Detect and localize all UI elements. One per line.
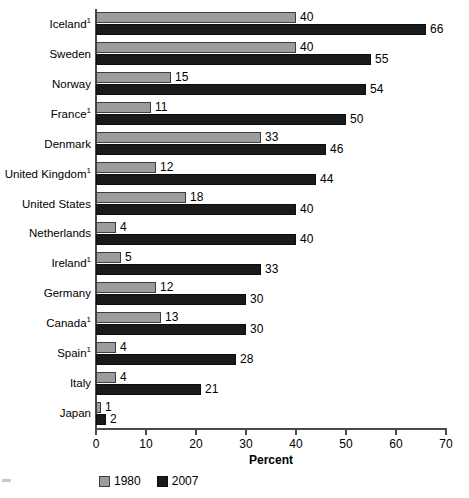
bar-2007-denmark (96, 144, 326, 155)
x-axis-tick-label: 40 (276, 437, 316, 451)
legend-label-1980: 1980 (114, 474, 141, 488)
category-label-iceland: Iceland1 (1, 18, 91, 30)
x-axis-tick-label: 0 (76, 437, 116, 451)
chart-legend: 1980 2007 (99, 474, 208, 488)
legend-swatch-2007-icon (157, 476, 168, 487)
category-label-ireland: Ireland1 (1, 257, 91, 269)
bar-2007-spain (96, 354, 236, 365)
bar-value-1980-germany: 12 (160, 282, 173, 293)
bar-value-1980-spain: 4 (120, 342, 127, 353)
bar-value-2007-denmark: 46 (330, 144, 343, 155)
x-axis-tick (95, 429, 97, 435)
bar-value-2007-united-states: 40 (300, 204, 313, 215)
bar-2007-norway (96, 84, 366, 95)
bar-value-2007-united-kingdom: 44 (320, 174, 333, 185)
category-label-france: France1 (1, 108, 91, 120)
x-axis-tick (145, 429, 147, 435)
bar-value-2007-japan: 2 (110, 414, 117, 425)
bar-value-2007-spain: 28 (240, 354, 253, 365)
bar-1980-italy (96, 372, 116, 383)
category-label-italy: Italy (1, 377, 91, 389)
bar-value-1980-denmark: 33 (265, 132, 278, 143)
category-label-united-states: United States (1, 198, 91, 210)
x-axis-tick (295, 429, 297, 435)
x-axis-tick-label: 50 (326, 437, 366, 451)
bar-2007-netherlands (96, 234, 296, 245)
bar-value-1980-canada: 13 (165, 312, 178, 323)
x-axis-tick (345, 429, 347, 435)
bar-1980-netherlands (96, 222, 116, 233)
bar-2007-canada (96, 324, 246, 335)
x-axis-tick-label: 20 (176, 437, 216, 451)
bar-1980-canada (96, 312, 161, 323)
category-axis-labels: Iceland1SwedenNorwayFrance1DenmarkUnited… (0, 9, 91, 428)
x-axis-tick-label: 70 (426, 437, 466, 451)
x-axis-title: Percent (96, 453, 446, 467)
legend-item-1980: 1980 (99, 474, 141, 488)
bar-value-1980-norway: 15 (175, 72, 188, 83)
bar-2007-iceland (96, 24, 426, 35)
category-label-canada: Canada1 (1, 317, 91, 329)
plot-area: 4066405515541150334612441840440533123013… (96, 9, 446, 428)
bar-2007-ireland (96, 264, 261, 275)
bar-value-2007-sweden: 55 (375, 54, 388, 65)
category-label-japan: Japan (1, 407, 91, 419)
bar-value-2007-germany: 30 (250, 294, 263, 305)
x-axis-tick (445, 429, 447, 435)
bar-value-2007-canada: 30 (250, 324, 263, 335)
bar-value-1980-united-kingdom: 12 (160, 162, 173, 173)
bar-value-1980-united-states: 18 (190, 192, 203, 203)
bar-value-1980-italy: 4 (120, 372, 127, 383)
bar-1980-united-states (96, 192, 186, 203)
x-axis-tick-label: 10 (126, 437, 166, 451)
category-label-denmark: Denmark (1, 138, 91, 150)
category-label-norway: Norway (1, 78, 91, 90)
bar-1980-germany (96, 282, 156, 293)
bar-1980-denmark (96, 132, 261, 143)
bar-value-1980-france: 11 (155, 102, 167, 113)
category-label-germany: Germany (1, 287, 91, 299)
bar-1980-japan (96, 402, 101, 413)
bar-2007-germany (96, 294, 246, 305)
bar-2007-united-states (96, 204, 296, 215)
bar-1980-iceland (96, 12, 296, 23)
bar-2007-japan (96, 414, 106, 425)
category-label-spain: Spain1 (1, 347, 91, 359)
legend-item-2007: 2007 (157, 474, 199, 488)
x-axis-tick (195, 429, 197, 435)
category-label-united-kingdom: United Kingdom1 (1, 168, 91, 180)
bar-value-1980-japan: 1 (105, 402, 112, 413)
bar-value-2007-italy: 21 (205, 384, 218, 395)
legend-label-2007: 2007 (172, 474, 199, 488)
bar-2007-sweden (96, 54, 371, 65)
category-label-sweden: Sweden (1, 48, 91, 60)
bar-chart: Iceland1SwedenNorwayFrance1DenmarkUnited… (0, 0, 469, 498)
x-axis-tick-label: 60 (376, 437, 416, 451)
bar-1980-norway (96, 72, 171, 83)
x-axis-tick (245, 429, 247, 435)
bar-value-2007-iceland: 66 (430, 24, 443, 35)
bar-1980-united-kingdom (96, 162, 156, 173)
x-axis-line (95, 428, 447, 430)
bar-value-2007-netherlands: 40 (300, 234, 313, 245)
bar-value-2007-norway: 54 (370, 84, 383, 95)
bar-1980-spain (96, 342, 116, 353)
bar-2007-france (96, 114, 346, 125)
bar-value-1980-ireland: 5 (125, 252, 132, 263)
bar-2007-united-kingdom (96, 174, 316, 185)
x-axis-tick-label: 30 (226, 437, 266, 451)
x-axis-tick (395, 429, 397, 435)
legend-swatch-1980-icon (99, 476, 110, 487)
bar-value-1980-sweden: 40 (300, 42, 313, 53)
bar-1980-france (96, 102, 151, 113)
bar-value-2007-ireland: 33 (265, 264, 278, 275)
bar-1980-sweden (96, 42, 296, 53)
bar-1980-ireland (96, 252, 121, 263)
bar-value-1980-netherlands: 4 (120, 222, 127, 233)
category-label-netherlands: Netherlands (1, 227, 91, 239)
bar-2007-italy (96, 384, 201, 395)
bar-value-2007-france: 50 (350, 114, 363, 125)
bar-value-1980-iceland: 40 (300, 12, 313, 23)
scan-artifact-mark (2, 479, 11, 482)
